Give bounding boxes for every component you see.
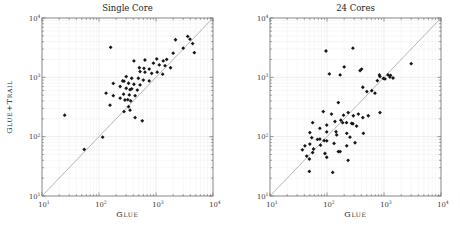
svg-text:102: 102 <box>29 133 41 142</box>
svg-text:101: 101 <box>38 200 50 209</box>
svg-text:103: 103 <box>152 200 164 209</box>
scatter-plot-left: 101101102102103103104104 <box>29 14 221 209</box>
svg-text:101: 101 <box>29 192 41 201</box>
svg-text:102: 102 <box>95 200 107 209</box>
svg-text:104: 104 <box>209 200 221 209</box>
svg-text:101: 101 <box>257 192 269 201</box>
svg-text:104: 104 <box>257 14 269 23</box>
svg-text:104: 104 <box>29 14 41 23</box>
svg-text:104: 104 <box>437 200 449 209</box>
scatter-plots-svg: 1011011021021031031041041011011021021031… <box>0 0 460 232</box>
svg-text:103: 103 <box>380 200 392 209</box>
svg-text:103: 103 <box>29 73 41 82</box>
svg-text:101: 101 <box>266 200 278 209</box>
svg-text:102: 102 <box>323 200 335 209</box>
figure-canvas: Glue+Trail Single Core 24 Cores Glue Glu… <box>0 0 460 232</box>
svg-text:103: 103 <box>257 73 269 82</box>
svg-text:102: 102 <box>257 133 269 142</box>
scatter-plot-right: 101101102102103103104104 <box>257 14 449 209</box>
